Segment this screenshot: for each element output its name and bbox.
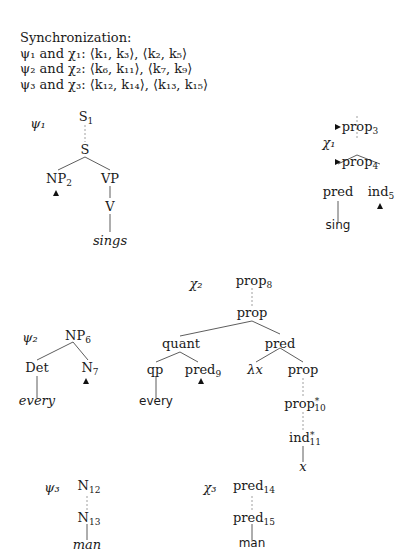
node-NP2: NP2	[46, 172, 72, 186]
node-pred: pred	[265, 337, 296, 351]
node-prop10: prop*10	[284, 397, 326, 411]
substitution-marker-icon	[83, 378, 89, 384]
node-pred: pred	[323, 185, 354, 199]
node-pred9: pred9	[185, 363, 221, 377]
leaf-man: man	[73, 538, 101, 552]
tree-label-psi2: ψ₂	[22, 331, 37, 345]
tree-label-chi1: χ₁	[322, 136, 335, 150]
node-Det: Det	[25, 361, 48, 375]
node-N13: N13	[78, 511, 101, 525]
substitution-marker-icon	[198, 378, 204, 384]
node-prop8: prop8	[236, 274, 272, 288]
node-prop4: prop4	[342, 155, 378, 169]
node-S1: S1	[79, 110, 94, 124]
node-quant: quant	[162, 337, 200, 351]
adjunction-marker-icon	[335, 159, 341, 165]
node-lambda-x: λx	[247, 363, 263, 377]
leaf-sing: sing	[326, 218, 351, 232]
node-prop: prop	[237, 306, 268, 320]
leaf-every: every	[19, 394, 55, 408]
adjunction-marker-icon	[335, 124, 341, 130]
node-N7: N7	[81, 361, 98, 375]
tree-label-chi3: χ₃	[203, 481, 216, 495]
leaf-sings: sings	[93, 234, 127, 248]
tree-label-psi3: ψ₃	[44, 481, 59, 495]
leaf-every: every	[139, 394, 173, 408]
node-prop-right: prop	[288, 363, 319, 377]
substitution-marker-icon	[53, 190, 59, 196]
leaf-man: man	[239, 536, 266, 550]
tree-label-chi2: χ₂	[189, 277, 202, 291]
leaf-x: x	[299, 460, 306, 474]
node-prop3: prop3	[342, 120, 378, 134]
node-ind5: ind5	[368, 185, 395, 199]
node-pred14: pred14	[233, 479, 275, 493]
node-N12: N12	[78, 479, 101, 493]
node-V: V	[105, 200, 114, 214]
node-S: S	[81, 143, 90, 157]
node-VP: VP	[101, 172, 119, 186]
node-NP6: NP6	[65, 329, 91, 343]
node-qp: qp	[147, 363, 164, 377]
tree-label-psi1: ψ₁	[30, 117, 45, 131]
node-ind11: ind*11	[289, 431, 321, 445]
substitution-marker-icon	[377, 203, 383, 209]
node-pred15: pred15	[233, 511, 275, 525]
